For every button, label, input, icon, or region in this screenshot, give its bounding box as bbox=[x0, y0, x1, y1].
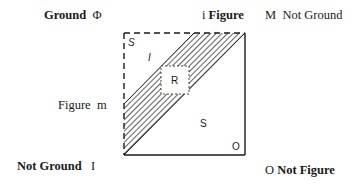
region-label-top-left-s: S bbox=[128, 37, 135, 48]
region-label-corner-o: O bbox=[232, 141, 240, 152]
square-diagram: S I R S O bbox=[0, 0, 364, 192]
region-label-center-r: R bbox=[171, 75, 178, 86]
region-label-upper-i: I bbox=[148, 52, 151, 63]
region-label-lower-s: S bbox=[200, 118, 207, 129]
